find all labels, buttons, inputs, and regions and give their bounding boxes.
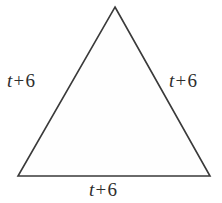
side-label-right-constant: 6 <box>187 70 197 91</box>
triangle-figure: t+6 t+6 t+6 <box>0 0 222 203</box>
triangle-shape <box>0 0 222 203</box>
side-label-left-operator: + <box>12 70 25 91</box>
side-label-right-operator: + <box>174 70 187 91</box>
side-label-right: t+6 <box>169 71 197 91</box>
side-label-bottom: t+6 <box>89 180 117 200</box>
side-label-bottom-constant: 6 <box>107 179 117 200</box>
side-label-left: t+6 <box>7 71 35 91</box>
side-label-left-constant: 6 <box>25 70 35 91</box>
triangle-outline <box>18 7 210 176</box>
side-label-bottom-operator: + <box>94 179 107 200</box>
